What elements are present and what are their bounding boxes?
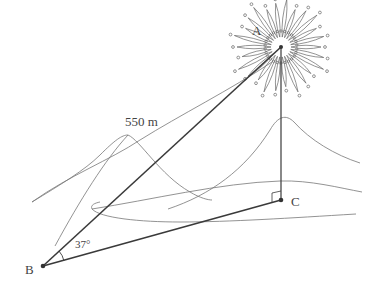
label-distance-AB: 550 m (125, 114, 158, 130)
triangle-ABC (43, 47, 281, 266)
diagram-canvas (0, 0, 378, 292)
terrain (32, 62, 362, 246)
label-point-C: C (291, 194, 300, 210)
point-A-dot (279, 45, 283, 49)
label-point-A: A (252, 23, 261, 39)
mountain-left (32, 135, 212, 202)
angle-arc-B (59, 251, 64, 261)
mountain-right (168, 117, 360, 209)
point-B-dot (41, 264, 46, 269)
mountain-left-slope (55, 135, 128, 246)
lake-upper (92, 181, 362, 209)
label-point-B: B (25, 262, 34, 278)
label-angle-B: 37° (75, 238, 90, 250)
point-C-dot (279, 198, 284, 203)
terrain-ridge-back (32, 62, 272, 202)
